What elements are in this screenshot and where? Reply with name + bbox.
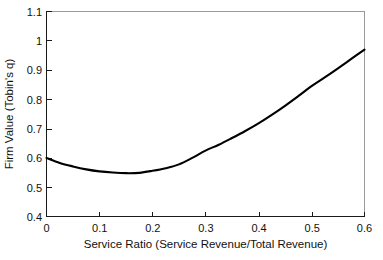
y-tick-label: 0.7 <box>27 123 42 135</box>
y-tick-label: 0.5 <box>27 182 42 194</box>
y-axis-title: Firm Value (Tobin's q) <box>3 59 15 170</box>
chart-plot-svg: 1.1 1 0.9 0.8 0.7 0.6 0.5 0.4 0 0.1 0.2 … <box>0 0 383 260</box>
y-tick-label: 0.4 <box>27 211 42 223</box>
x-tick-label: 0.3 <box>198 222 213 234</box>
x-tick-label: 0 <box>43 222 49 234</box>
x-tick-label: 0.6 <box>357 222 372 234</box>
y-tick-label: 1.1 <box>27 6 42 18</box>
x-axis-title: Service Ratio (Service Revenue/Total Rev… <box>84 238 328 250</box>
x-axis-tick-labels: 0 0.1 0.2 0.3 0.4 0.5 0.6 <box>43 222 372 234</box>
x-tick-label: 0.2 <box>145 222 160 234</box>
y-tick-label: 0.6 <box>27 152 42 164</box>
y-tick-label: 0.8 <box>27 94 42 106</box>
y-tick-label: 0.9 <box>27 64 42 76</box>
chart-figure: 1.1 1 0.9 0.8 0.7 0.6 0.5 0.4 0 0.1 0.2 … <box>0 0 383 260</box>
x-tick-label: 0.5 <box>305 222 320 234</box>
y-tick-label: 1 <box>36 35 42 47</box>
plot-area-background <box>46 11 365 217</box>
x-tick-label: 0.4 <box>251 222 266 234</box>
x-tick-label: 0.1 <box>92 222 107 234</box>
y-axis-tick-labels: 1.1 1 0.9 0.8 0.7 0.6 0.5 0.4 <box>27 6 42 223</box>
